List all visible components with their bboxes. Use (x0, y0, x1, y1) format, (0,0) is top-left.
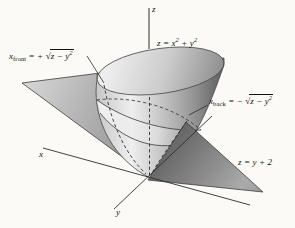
diagram-canvas (0, 0, 295, 228)
plane-equation-label: z = y + 2 (238, 157, 272, 167)
paraboloid-plane-figure: z z = x2 + y2 xfront = + √z − y2 xback =… (0, 0, 295, 228)
z-axis-label: z (152, 4, 156, 14)
x-axis-label: x (39, 149, 43, 159)
xback-label: xback = − √z − y2 (209, 94, 273, 107)
surface-equation-label: z = x2 + y2 (157, 36, 197, 48)
y-axis-label: y (116, 207, 120, 217)
xfront-label: xfront = + √z − y2 (9, 49, 74, 62)
